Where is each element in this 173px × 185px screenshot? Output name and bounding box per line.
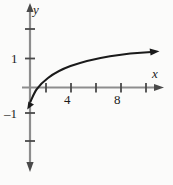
y-axis-arrow-down-icon bbox=[26, 162, 33, 172]
x-axis-name-label: x bbox=[152, 67, 158, 80]
x-axis-tick-label-8: 8 bbox=[114, 93, 121, 106]
y-axis-tick-label-minus-1: –1 bbox=[4, 107, 17, 120]
x-axis-tick-label-4: 4 bbox=[64, 93, 71, 106]
plot-canvas bbox=[0, 0, 173, 185]
log-curve-group bbox=[27, 49, 159, 110]
curve-arrow-end-icon bbox=[150, 49, 160, 56]
y-axis-name-label: y bbox=[33, 3, 39, 16]
y-axis-tick-label-1: 1 bbox=[11, 52, 18, 65]
x-axis-arrow-right-icon bbox=[154, 84, 164, 91]
x-axis-group bbox=[22, 83, 164, 93]
graph-figure: 1 –1 4 8 x y bbox=[0, 0, 173, 185]
log-curve-path bbox=[31, 52, 152, 102]
